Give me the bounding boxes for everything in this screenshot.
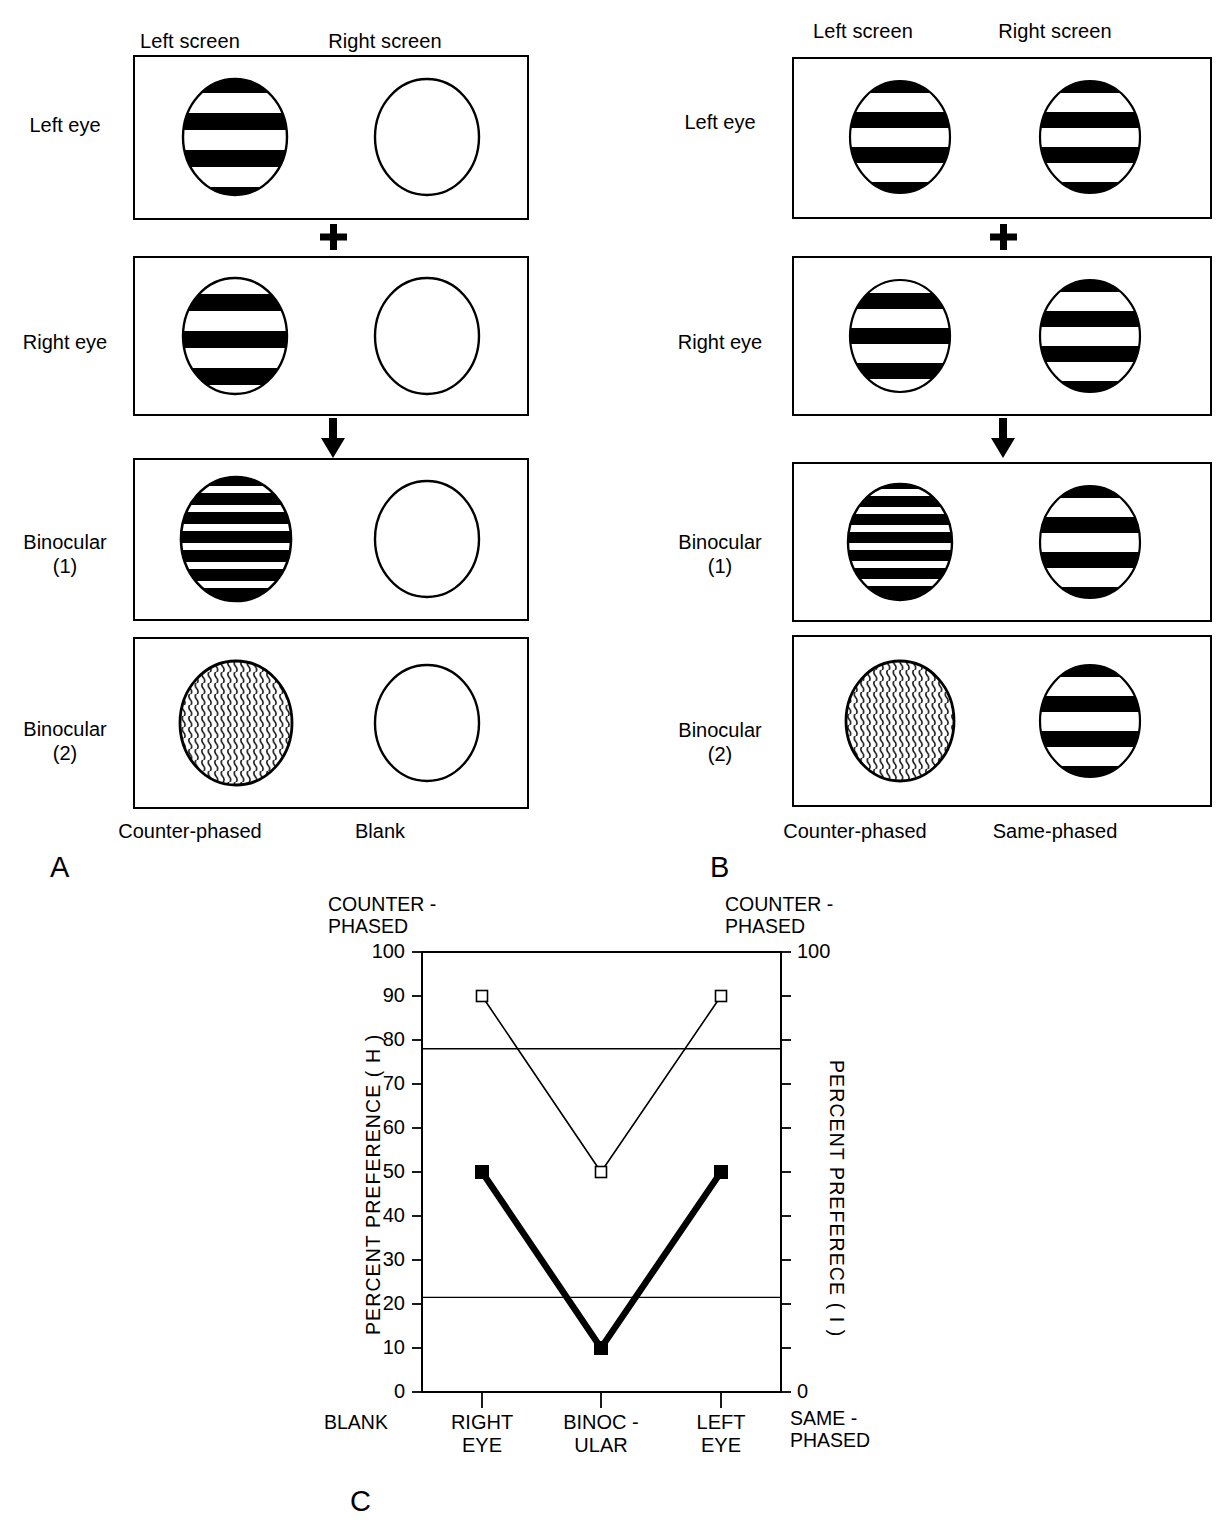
panel-a-row-label-binocular-1: Binocular (1): [0, 530, 130, 578]
panel-a-connector-plus-1: [318, 222, 348, 256]
panel-b-stim-box-right-eye: [792, 256, 1212, 416]
panel-a-stim-box-left-eye: [133, 55, 529, 220]
panel-b-row-label-binocular-1-line1: Binocular: [678, 531, 761, 553]
panel-a-stimulus-row3: [135, 460, 527, 619]
stimulus-outline-left: [183, 79, 287, 195]
chart-bottom-left-corner-label: BLANK: [324, 1411, 388, 1433]
panel-b-row-label-binocular-2: Binocular (2): [655, 718, 785, 766]
panel-a-row-label-binocular-2-line1: Binocular: [23, 718, 106, 740]
chart-ytick-label-100: 100: [357, 940, 405, 963]
panel-a-row-label-binocular-1-line1: Binocular: [23, 531, 106, 553]
blank-circle-right: [375, 665, 479, 781]
chart-bottom-right-corner-label: SAME - PHASED: [790, 1407, 870, 1451]
panel-b-stimulus-row2: [794, 258, 1210, 414]
chart-ytick-label-0: 0: [357, 1380, 405, 1403]
chart-xcat-right-eye-line1: RIGHT: [432, 1411, 532, 1434]
chart-ytick-label-20: 20: [357, 1292, 405, 1315]
grating-left-eye: [175, 77, 305, 205]
chart-y-ticks-left: [412, 952, 422, 1392]
chart-xcat-left-eye-line2: EYE: [671, 1434, 771, 1457]
chart-series-i-point-1: [594, 1341, 608, 1355]
panel-c-letter: C: [350, 1485, 371, 1518]
panel-a-connector-arrow-down: [318, 418, 348, 462]
arrow-down-icon: [988, 418, 1018, 458]
panel-b-stimulus-row1: [794, 59, 1210, 217]
blank-circle-right: [375, 79, 479, 195]
stimulus-outline-left: [850, 81, 950, 193]
panel-a-stim-box-binocular-2: [133, 637, 529, 809]
chart-series-i-point-0: [475, 1165, 489, 1179]
grating-right-screen: [1034, 77, 1154, 199]
chart-ytick-label-50: 50: [357, 1160, 405, 1183]
chart-series-h-point-0: [477, 991, 488, 1002]
panel-a: Left screen Right screen Left eye: [0, 0, 600, 880]
panel-b: Left screen Right screen Left eye: [655, 0, 1218, 880]
chart-xcat-right-eye-line2: EYE: [432, 1434, 532, 1457]
wavy-texture-binocular-2: [842, 657, 964, 789]
chart-ytick-label-80: 80: [357, 1028, 405, 1051]
chart-series-i-line: [482, 1172, 721, 1348]
panel-a-stimulus-row4: [135, 639, 527, 807]
grating-right-screen: [1034, 482, 1154, 604]
panel-a-stim-box-binocular-1: [133, 458, 529, 621]
chart-ytick-label-40: 40: [357, 1204, 405, 1227]
chart-y-ticks-right: [781, 952, 791, 1392]
chart-xcat-right-eye: RIGHT EYE: [432, 1411, 532, 1457]
chart-ytick-label-90: 90: [357, 984, 405, 1007]
chart-x-ticks: [482, 1392, 721, 1408]
chart-xcat-left-eye: LEFT EYE: [671, 1411, 771, 1457]
panel-b-connector-plus-1: [988, 222, 1018, 256]
panel-b-footer-label-left: Counter-phased: [765, 820, 945, 843]
panel-a-footer-label-right: Blank: [290, 820, 470, 843]
panel-b-row-label-binocular-2-line1: Binocular: [678, 719, 761, 741]
panel-b-connector-arrow-down: [988, 418, 1018, 462]
panel-a-row-label-binocular-1-line2: (1): [53, 555, 77, 577]
panel-b-stimulus-row4: [794, 637, 1210, 805]
blank-circle-right: [375, 481, 479, 597]
panel-b-stim-box-binocular-2: [792, 635, 1212, 807]
panel-b-row-label-left-eye: Left eye: [655, 110, 785, 134]
panel-a-row-label-left-eye: Left eye: [0, 113, 130, 137]
panel-b-row-label-binocular-1: Binocular (1): [655, 530, 785, 578]
panel-b-stimulus-row3: [794, 464, 1210, 620]
stimulus-outline-right: [1040, 81, 1140, 193]
chart-xcat-binocular-line1: BINOC -: [546, 1411, 656, 1434]
chart-series-h-point-1: [596, 1167, 607, 1178]
panel-b-footer-label-right: Same-phased: [955, 820, 1155, 843]
panel-b-stim-box-left-eye: [792, 57, 1212, 219]
chart-ytick-label-right-100: 100: [797, 940, 830, 963]
chart-series-h-line: [482, 996, 721, 1172]
panel-a-stim-box-right-eye: [133, 256, 529, 416]
chart-xcat-left-eye-line1: LEFT: [671, 1411, 771, 1434]
panel-b-stim-box-binocular-1: [792, 462, 1212, 622]
panel-a-stimulus-row1: [135, 57, 527, 218]
panel-c-chart: COUNTER - PHASED COUNTER - PHASED PERCEN…: [300, 880, 920, 1500]
grating-left-screen: [844, 77, 964, 199]
panel-a-left-screen-header: Left screen: [100, 30, 280, 53]
wavy-texture-binocular-2: [175, 657, 305, 792]
panel-a-row-label-binocular-2-line2: (2): [53, 742, 77, 764]
chart-ytick-label-60: 60: [357, 1116, 405, 1139]
panel-b-row-label-binocular-2-line2: (2): [708, 743, 732, 765]
chart-xcat-binocular: BINOC - ULAR: [546, 1411, 656, 1457]
grating-binocular-double-frequency: [175, 474, 305, 602]
panel-a-row-label-right-eye: Right eye: [0, 330, 130, 354]
stimulus-outline-right: [1040, 486, 1140, 598]
panel-b-right-screen-header: Right screen: [955, 20, 1155, 43]
chart-ytick-label-10: 10: [357, 1336, 405, 1359]
panel-b-row-label-right-eye: Right eye: [655, 330, 785, 354]
figure-root: Left screen Right screen Left eye: [0, 0, 1218, 1528]
chart-bottom-right-corner-label-line2: PHASED: [790, 1429, 870, 1451]
blank-circle-right: [375, 278, 479, 394]
panel-a-footer-label-left: Counter-phased: [100, 820, 280, 843]
panel-a-stimulus-row2: [135, 258, 527, 414]
chart-ytick-label-70: 70: [357, 1072, 405, 1095]
grating-right-screen: [1034, 661, 1154, 783]
chart-bottom-right-corner-label-line1: SAME -: [790, 1407, 870, 1429]
panel-b-row-label-binocular-1-line2: (1): [708, 555, 732, 577]
chart-ytick-label-right-0: 0: [797, 1380, 808, 1403]
chart-series-i-point-2: [714, 1165, 728, 1179]
chart-xcat-binocular-line2: ULAR: [546, 1434, 656, 1457]
panel-a-right-screen-header: Right screen: [285, 30, 485, 53]
arrow-down-icon: [318, 418, 348, 458]
